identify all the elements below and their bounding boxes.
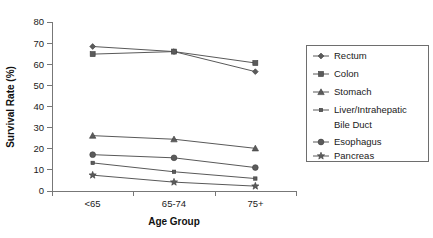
- series-stomach: [89, 132, 258, 150]
- x-tick-label-65-74: 65-74: [162, 198, 186, 209]
- series-colon: [90, 49, 258, 65]
- y-tick-label-70: 70: [33, 38, 44, 49]
- data-point-esophagus-1: [171, 155, 177, 161]
- series-rectum: [90, 44, 258, 75]
- legend-label-colon: Colon: [334, 68, 359, 79]
- small-square-icon: [319, 108, 322, 111]
- data-point-pancreas-0: [89, 171, 96, 178]
- line-chart-survival-rate-by-age-group: Survival Rate (%) 80 70 60 50 40 30 20 1…: [0, 0, 433, 238]
- data-point-esophagus-0: [90, 152, 96, 158]
- legend-label-esophagus: Esophagus: [334, 136, 382, 147]
- legend-label-pancreas: Pancreas: [334, 150, 374, 161]
- y-tick-label-20: 20: [33, 143, 44, 154]
- series-pancreas: [89, 171, 259, 189]
- data-point-liver-intrahepatic-bile-duct-1: [172, 170, 175, 173]
- legend-label-liver-line1: Liver/Intrahepatic: [334, 104, 407, 115]
- data-point-liver-intrahepatic-bile-duct-2: [254, 177, 257, 180]
- data-point-rectum-2: [252, 69, 258, 75]
- data-point-colon-2: [253, 60, 258, 65]
- x-axis-ticks: [52, 191, 296, 196]
- y-tick-label-0: 0: [39, 185, 44, 196]
- legend-label-stomach: Stomach: [334, 86, 372, 97]
- data-point-esophagus-2: [252, 165, 258, 171]
- y-tick-label-30: 30: [33, 122, 44, 133]
- y-tick-label-40: 40: [33, 101, 44, 112]
- series-esophagus: [90, 152, 258, 171]
- y-tick-label-60: 60: [33, 59, 44, 70]
- legend-label-rectum: Rectum: [334, 50, 367, 61]
- legend: Rectum Colon Stomach Liver/Intrahepatic …: [306, 45, 428, 161]
- x-tick-label-under-65: <65: [84, 198, 100, 209]
- x-tick-label-75-plus: 75+: [247, 198, 264, 209]
- y-tick-label-50: 50: [33, 80, 44, 91]
- series-layer: [89, 44, 259, 190]
- circle-icon: [318, 139, 324, 145]
- data-point-colon-0: [90, 52, 95, 57]
- data-point-liver-intrahepatic-bile-duct-0: [91, 161, 94, 164]
- square-icon: [319, 72, 324, 77]
- y-tick-label-80: 80: [33, 16, 44, 27]
- y-axis-title: Survival Rate (%): [5, 66, 16, 148]
- data-point-pancreas-1: [170, 178, 177, 185]
- chart-canvas: Survival Rate (%) 80 70 60 50 40 30 20 1…: [0, 0, 433, 238]
- y-tick-label-10: 10: [33, 164, 44, 175]
- legend-label-liver-line2: Bile Duct: [334, 119, 372, 130]
- x-axis-title: Age Group: [148, 216, 200, 227]
- data-point-pancreas-2: [252, 182, 259, 189]
- data-point-rectum-0: [90, 44, 96, 50]
- data-point-colon-1: [172, 49, 177, 54]
- y-axis-ticks: 80 70 60 50 40 30 20 10 0: [33, 16, 52, 196]
